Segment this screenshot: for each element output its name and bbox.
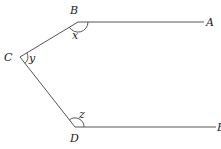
label-point-c: C xyxy=(4,51,13,64)
label-point-d: D xyxy=(69,132,79,145)
label-point-a: A xyxy=(205,16,214,29)
angle-arc-y xyxy=(25,53,28,63)
label-angle-z: z xyxy=(78,108,85,121)
label-angle-x: x xyxy=(72,29,79,42)
angle-diagram: A B C D E x y z xyxy=(0,0,221,149)
label-point-b: B xyxy=(69,4,78,17)
segment-cd xyxy=(20,57,75,127)
label-angle-y: y xyxy=(28,52,36,65)
label-point-e: E xyxy=(216,121,221,134)
